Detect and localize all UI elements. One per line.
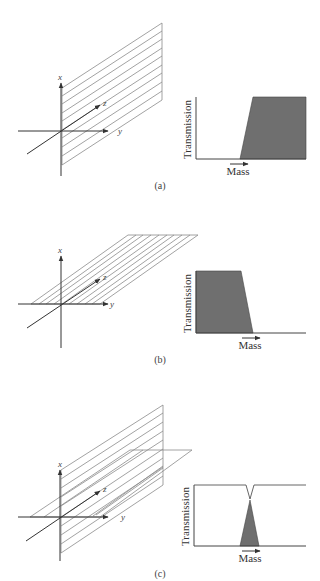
transmission-curve [194,485,306,499]
chart-a: Transmission Mass [181,97,306,177]
chart-b: Transmission Mass [181,271,306,351]
plane-b-horizontal [31,235,198,304]
panel-c: x y z Transmission Mass (c) [18,405,306,580]
y-axis-label: y [117,126,122,136]
y-axis-title: Transmission [181,100,193,159]
plane-a-vertical [62,23,162,165]
transmission-region [240,97,306,159]
x-axis-label: x [57,72,62,82]
z-axis-label: z [102,484,107,494]
panel-a: x y z Transmission Mass (a) [18,23,306,192]
z-axis-label: z [102,272,107,282]
chart-c: Transmission Mass [179,485,306,564]
caption-a: (a) [154,180,165,192]
panel-b: x y z Transmission Mass (b) [18,235,306,366]
x-axis-title: Mass [238,339,261,351]
y-axis-label: y [120,512,125,522]
x-axis-label: x [57,245,62,255]
x-axis-title: Mass [238,552,261,564]
transmission-region [196,271,253,333]
caption-c: (c) [154,568,165,580]
transmission-region [240,500,259,546]
y-axis-title: Transmission [179,487,191,546]
x-axis-label: x [57,459,62,469]
caption-b: (b) [154,354,166,366]
y-axis-label: y [109,299,114,309]
y-axis-title: Transmission [181,274,193,333]
figure: x y z Transmission Mass (a) [0,0,320,581]
x-axis-title: Mass [226,165,249,177]
z-axis-label: z [102,98,107,108]
axes-3d-a: x y z [18,72,122,176]
